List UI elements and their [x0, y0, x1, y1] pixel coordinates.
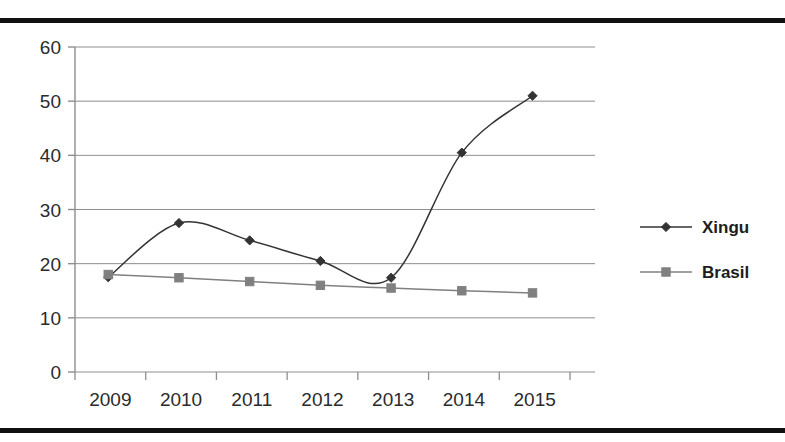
data-point-brasil — [458, 287, 466, 295]
gridlines-group — [75, 47, 595, 372]
y-axis-tick-label: 40 — [40, 145, 61, 166]
legend-marker-xingu — [661, 222, 670, 231]
data-point-xingu — [174, 218, 183, 227]
x-axis-tick-labels: 2009201020112012201320142015 — [89, 389, 556, 410]
y-tick-marks-group — [68, 47, 75, 372]
cropped-caption-text — [14, 0, 514, 12]
data-point-brasil — [104, 270, 112, 278]
data-point-brasil — [175, 274, 183, 282]
y-axis-tick-label: 50 — [40, 91, 61, 112]
x-axis-tick-label: 2014 — [443, 389, 486, 410]
x-tick-marks-group — [75, 372, 570, 380]
chart-legend: XinguBrasil — [640, 218, 749, 282]
y-axis-tick-label: 0 — [50, 362, 61, 383]
data-point-xingu — [245, 236, 254, 245]
y-axis-tick-label: 20 — [40, 254, 61, 275]
y-axis-tick-labels: 0102030405060 — [40, 37, 61, 383]
y-axis-tick-label: 60 — [40, 37, 61, 58]
x-axis-tick-label: 2015 — [514, 389, 556, 410]
x-axis-tick-label: 2009 — [89, 389, 131, 410]
legend-marker-brasil — [662, 268, 670, 276]
series-markers-group — [104, 91, 537, 297]
line-chart: 0102030405060 20092010201120122013201420… — [0, 24, 785, 426]
figure-container: 0102030405060 20092010201120122013201420… — [0, 0, 785, 442]
x-axis-tick-label: 2012 — [301, 389, 343, 410]
plot-area-wrapper: 0102030405060 20092010201120122013201420… — [0, 24, 785, 426]
figure-top-rule — [0, 18, 785, 23]
legend-label-xingu: Xingu — [702, 218, 749, 237]
figure-bottom-rule — [0, 428, 785, 433]
y-axis-tick-label: 10 — [40, 308, 61, 329]
legend-label-brasil: Brasil — [702, 263, 749, 282]
data-point-brasil — [528, 289, 536, 297]
data-point-xingu — [316, 256, 325, 265]
data-point-brasil — [316, 281, 324, 289]
x-axis-tick-label: 2013 — [372, 389, 414, 410]
data-point-brasil — [387, 284, 395, 292]
series-line-xingu — [108, 96, 532, 284]
x-axis-tick-label: 2010 — [160, 389, 202, 410]
data-point-brasil — [245, 277, 253, 285]
y-axis-tick-label: 30 — [40, 200, 61, 221]
x-axis-tick-label: 2011 — [231, 389, 272, 410]
